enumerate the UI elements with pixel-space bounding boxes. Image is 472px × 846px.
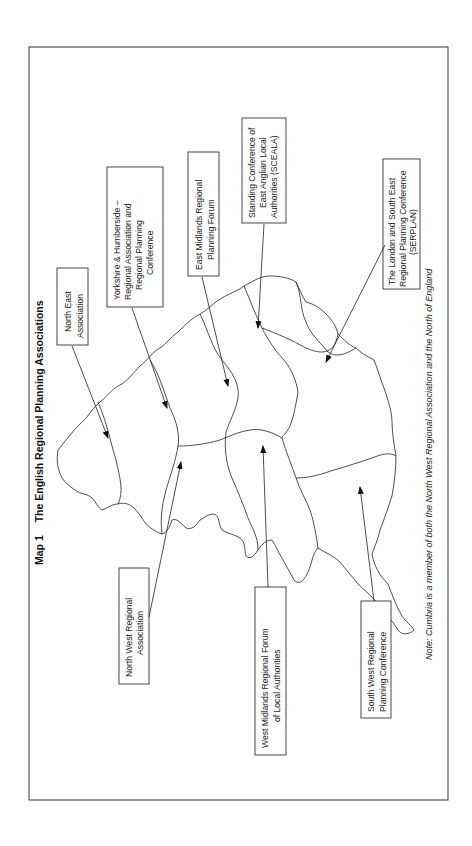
svg-text:West Midlands Regional Forum: West Midlands Regional Forum [260,628,270,748]
svg-text:East Midlands Regional: East Midlands Regional [194,180,204,270]
svg-text:Authorities (SCEALA): Authorities (SCEALA) [269,135,279,218]
svg-text:Association: Association [135,611,145,655]
svg-text:Standing Conference of: Standing Conference of [247,127,257,218]
svg-text:(SERPLAN): (SERPLAN) [408,209,418,255]
svg-text:Yorkshire & Humberside –: Yorkshire & Humberside – [112,200,122,300]
svg-text:Planning Forum: Planning Forum [206,199,216,260]
svg-text:North West Regional: North West Regional [124,598,134,677]
svg-text:The London and South East: The London and South East [387,177,397,285]
svg-text:Planning Conference: Planning Conference [378,632,388,712]
svg-text:Regional Planning: Regional Planning [134,220,144,290]
map-title-text: The English Regional Planning Associatio… [33,300,45,522]
svg-text:Regional Planning Conference: Regional Planning Conference [398,170,408,287]
svg-text:of Local Authorities: of Local Authorities [272,649,282,722]
svg-text:Conference: Conference [145,230,155,275]
map-note: Note: Cumbria is a member of both the No… [424,268,434,660]
svg-text:North East: North East [63,291,73,332]
svg-text:Association: Association [75,294,85,338]
svg-text:South West Regional: South West Regional [366,631,376,712]
svg-text:Regional Association and: Regional Association and [123,203,133,300]
svg-text:East Anglian Local: East Anglian Local [258,137,268,208]
map-number: Map 1 [33,535,45,565]
